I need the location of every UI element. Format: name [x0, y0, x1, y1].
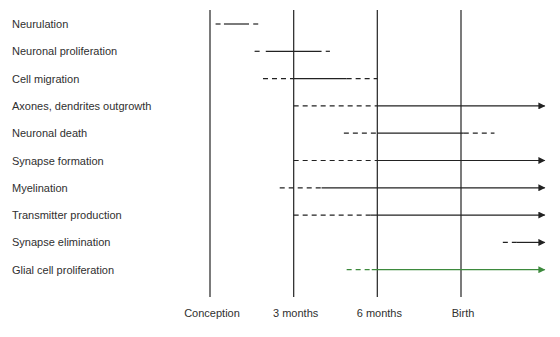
- row-label-axones-dendrites-outgrowth: Axones, dendrites outgrowth: [12, 100, 151, 112]
- row-label-glial-cell-proliferation: Glial cell proliferation: [12, 264, 114, 276]
- tick-label-3-months: 3 months: [273, 307, 319, 319]
- row-label-neuronal-death: Neuronal death: [12, 127, 87, 139]
- tick-label-conception: Conception: [184, 307, 240, 319]
- row-label-synapse-elimination: Synapse elimination: [12, 236, 110, 248]
- row-label-synapse-formation: Synapse formation: [12, 155, 104, 167]
- tick-label-6-months: 6 months: [357, 307, 403, 319]
- time-gridlines: [210, 10, 461, 297]
- row-label-neuronal-proliferation: Neuronal proliferation: [12, 45, 117, 57]
- row-label-neurulation: Neurulation: [12, 18, 68, 30]
- process-labels: NeurulationNeuronal proliferationCell mi…: [12, 18, 151, 276]
- time-axis-labels: Conception3 months6 monthsBirth: [184, 307, 474, 319]
- tick-label-birth: Birth: [452, 307, 475, 319]
- development-timeline-chart: NeurulationNeuronal proliferationCell mi…: [0, 0, 560, 337]
- process-timelines: [216, 24, 545, 270]
- row-label-myelination: Myelination: [12, 182, 68, 194]
- row-label-transmitter-production: Transmitter production: [12, 209, 122, 221]
- row-label-cell-migration: Cell migration: [12, 73, 79, 85]
